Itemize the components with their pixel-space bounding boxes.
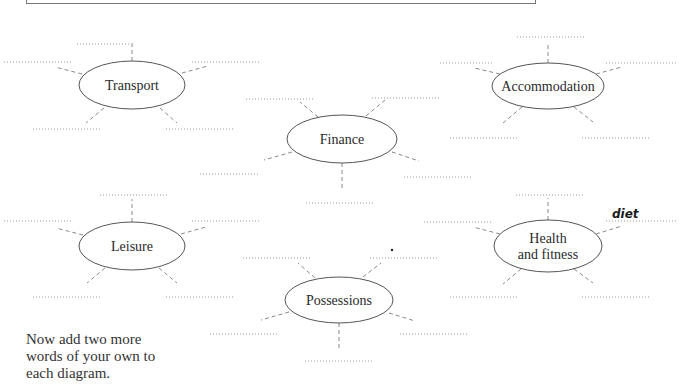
spoke-line bbox=[474, 68, 500, 74]
stray-mark bbox=[391, 249, 393, 251]
spoke-line bbox=[503, 269, 521, 284]
instruction-text: Now add two more words of your own to ea… bbox=[26, 331, 186, 382]
diagram-transport: Transport bbox=[4, 42, 260, 129]
topic-label: Possessions bbox=[306, 293, 372, 308]
spoke-line bbox=[264, 152, 292, 160]
instruction-line-2: words of your own to bbox=[26, 348, 186, 365]
spoke-line bbox=[574, 269, 593, 283]
spoke-line bbox=[392, 152, 419, 161]
spoke-line bbox=[159, 268, 177, 283]
spoke-line bbox=[389, 313, 415, 321]
spoke-line bbox=[503, 107, 522, 123]
diagram-leisure: Leisure bbox=[4, 195, 260, 297]
spoke-line bbox=[87, 268, 105, 283]
topic-label: Health bbox=[529, 231, 566, 246]
spoke-line bbox=[182, 66, 208, 73]
handwritten-answer: diet bbox=[612, 207, 640, 221]
spoke-line bbox=[363, 263, 381, 277]
spoke-line bbox=[55, 67, 82, 74]
diagram-possessions: Possessions bbox=[210, 258, 468, 361]
spoke-line bbox=[473, 227, 500, 234]
topic-ellipse bbox=[494, 220, 602, 272]
diagram-accommodation: Accommodation bbox=[440, 37, 676, 138]
spoke-line bbox=[298, 263, 315, 278]
diagram-finance: Finance bbox=[200, 98, 472, 203]
spoke-line bbox=[596, 67, 622, 74]
instruction-line-1: Now add two more bbox=[26, 331, 186, 348]
instruction-line-3: each diagram. bbox=[26, 365, 186, 382]
spoke-line bbox=[596, 226, 622, 234]
spoke-line bbox=[181, 227, 206, 234]
spoke-line bbox=[261, 312, 289, 320]
topic-label: and fitness bbox=[518, 247, 578, 262]
spoke-line bbox=[366, 100, 385, 116]
topic-label: Finance bbox=[320, 132, 364, 147]
topic-label: Transport bbox=[105, 78, 159, 93]
topic-label: Leisure bbox=[111, 239, 153, 254]
spoke-line bbox=[300, 102, 318, 117]
spoke-line bbox=[56, 228, 83, 235]
spoke-line bbox=[160, 108, 177, 123]
spoke-line bbox=[574, 107, 593, 122]
diagram-health-and-fitness: dietHealthand fitness bbox=[424, 195, 676, 297]
topic-label: Accommodation bbox=[501, 79, 594, 94]
spoke-line bbox=[86, 108, 104, 123]
